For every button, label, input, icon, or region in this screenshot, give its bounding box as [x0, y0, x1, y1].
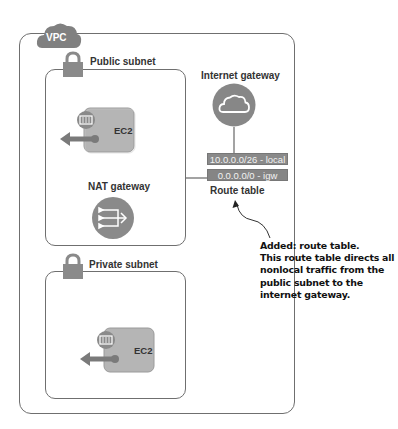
- annotation-line: This route table directs all: [260, 252, 394, 264]
- annotation-callout: Added: route table. This route table dir…: [260, 240, 394, 301]
- annotation-line: public subnet to the: [260, 277, 394, 289]
- route-table-row[interactable]: 10.0.0.0/26 - local: [207, 153, 288, 165]
- annotation-line: nonlocal traffic from the: [260, 264, 394, 276]
- route-table-label: Route table: [210, 185, 264, 196]
- connector-lines: [0, 0, 398, 429]
- callout-arrow: [237, 205, 270, 238]
- callout-arrowhead: [233, 200, 240, 208]
- annotation-line: Added: route table.: [260, 240, 394, 252]
- annotation-line: internet gateway.: [260, 289, 394, 301]
- route-table-row[interactable]: 0.0.0.0/0 - igw: [207, 169, 288, 181]
